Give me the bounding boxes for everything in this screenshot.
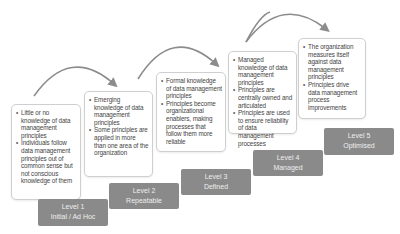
bullet: Principles become organizational enabler…: [161, 100, 222, 146]
level-number: Level 1: [38, 202, 108, 212]
level-name: Managed: [253, 163, 323, 173]
bullet: Managed knowledge of data management pri…: [233, 56, 293, 86]
level-name: Defined: [181, 182, 251, 192]
level-number: Level 4: [253, 153, 323, 163]
level-2-label: Level 2 Repeatable: [109, 183, 179, 209]
bullet: Little or no knowledge of data managemen…: [16, 109, 77, 139]
level-4-label: Level 4 Managed: [253, 150, 323, 176]
level-number: Level 3: [181, 172, 251, 182]
level-1-label: Level 1 Initial / Ad Hoc: [38, 199, 108, 226]
level-name: Optimised: [324, 141, 394, 151]
level-2-description-box: Emerging knowledge of data management pr…: [84, 91, 153, 177]
bullet: Principles drive data management process…: [303, 81, 362, 111]
bullet: The organization measures itself against…: [303, 43, 362, 81]
bullet: Principles are centrally owned and artic…: [233, 86, 293, 109]
level-3-description-box: Formal knowledge of data management prin…: [156, 72, 226, 152]
bullet: Emerging knowledge of data management pr…: [89, 96, 149, 126]
level-3-label: Level 3 Defined: [181, 169, 251, 195]
bullet: Principles are used to ensure reliabilit…: [233, 109, 293, 147]
level-5-description-box: The organization measures itself against…: [298, 38, 366, 119]
level-name: Repeatable: [109, 196, 179, 206]
level-number: Level 2: [109, 186, 179, 196]
level-name: Initial / Ad Hoc: [38, 212, 108, 222]
level-4-description-box: Managed knowledge of data management pri…: [228, 51, 297, 134]
bullet: Individuals follow data management princ…: [16, 139, 77, 185]
bullet: Some principles are applied in more than…: [89, 126, 149, 156]
level-1-description-box: Little or no knowledge of data managemen…: [11, 104, 81, 200]
level-5-label: Level 5 Optimised: [324, 128, 394, 155]
level-number: Level 5: [324, 131, 394, 141]
bullet: Formal knowledge of data management prin…: [161, 77, 222, 100]
